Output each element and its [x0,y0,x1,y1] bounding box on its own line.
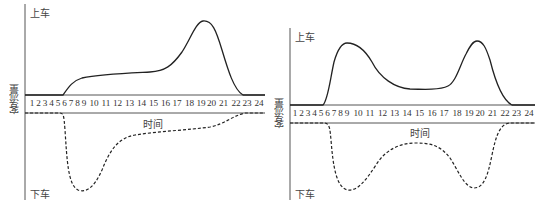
tick: 12 [378,108,387,118]
x-axis-label: 时间 [143,116,163,131]
boarding-label: 上车 [30,5,50,20]
tick: 22 [500,108,509,118]
tick: 18 [185,98,194,108]
tick: 4 [312,108,317,118]
tick: 16 [427,108,436,118]
tick: 7 [332,108,337,118]
tick: 6 [325,108,330,118]
tick: 8 [338,108,343,118]
tick: 1 [293,108,298,118]
alighting-label: 下车 [295,186,315,201]
tick: 16 [161,98,170,108]
tick: 3 [306,108,311,118]
tick: 13 [125,98,134,108]
tick: 23 [242,98,251,108]
boarding-curve [290,41,535,105]
boarding-curve [25,21,265,95]
tick: 20 [475,108,484,118]
tick: 22 [231,98,240,108]
tick: 17 [439,108,448,118]
tick: 4 [49,98,54,108]
tick: 19 [196,98,205,108]
tick: 1 [30,98,35,108]
tick: 9 [345,108,350,118]
tick: 6 [62,98,67,108]
tick: 14 [402,108,411,118]
tick: 2 [36,98,41,108]
tick: 14 [137,98,146,108]
tick: 8 [75,98,80,108]
tick: 11 [102,98,111,108]
tick: 5 [319,108,324,118]
tick: 24 [254,98,263,108]
tick: 12 [113,98,122,108]
x-axis-label: 时间 [410,125,430,140]
tick: 21 [488,108,497,118]
tick: 17 [172,98,181,108]
tick: 20 [207,98,216,108]
tick: 15 [415,108,424,118]
tick: 13 [390,108,399,118]
left-chart: 上车 下车 客流量 时间 1 2 3 4 5 6 7 8 9 10 11 12 … [0,0,270,211]
tick: 11 [366,108,375,118]
tick: 5 [56,98,61,108]
tick: 10 [89,98,98,108]
tick: 15 [149,98,158,108]
tick: 3 [43,98,48,108]
alighting-label: 下车 [30,186,50,201]
tick: 19 [464,108,473,118]
tick: 7 [69,98,74,108]
tick: 18 [452,108,461,118]
tick: 24 [524,108,533,118]
x-tick-labels: 1 2 3 4 5 6 7 8 9 10 11 12 13 14 15 16 1… [270,108,540,120]
tick: 2 [299,108,304,118]
right-chart: 上车 下车 客流量 时间 1 2 3 4 5 6 7 8 9 10 11 12 … [270,0,540,211]
tick: 23 [512,108,521,118]
tick: 21 [219,98,228,108]
x-tick-labels: 1 2 3 4 5 6 7 8 9 10 11 12 13 14 15 16 1… [0,98,270,110]
tick: 9 [82,98,87,108]
tick: 10 [353,108,362,118]
boarding-label: 上车 [295,29,315,44]
